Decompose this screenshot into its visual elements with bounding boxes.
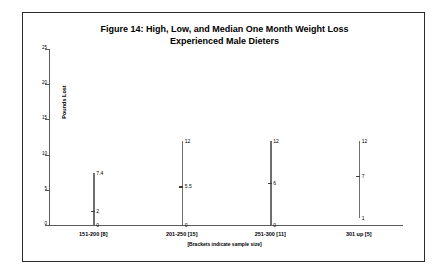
low-value-label: 0: [96, 222, 99, 228]
median-marker: [356, 176, 360, 177]
low-value-label: 0: [273, 222, 276, 228]
y-tick-label: 25: [42, 45, 47, 50]
median-marker: [268, 183, 272, 184]
y-tick-label: 5: [44, 186, 47, 191]
x-axis-line: [49, 225, 403, 226]
high-value-label: 12: [362, 138, 368, 144]
y-tick-label: 20: [42, 80, 47, 85]
chart-title-line-1: Figure 14: High, Low, and Median One Mon…: [23, 23, 426, 35]
y-axis-line: [49, 49, 50, 225]
median-marker: [179, 186, 183, 187]
median-value-label: 6: [273, 180, 276, 186]
median-value-label: 2: [96, 208, 99, 214]
range-line: [359, 141, 360, 218]
x-category-label: 201-250 [15]: [137, 231, 227, 237]
median-value-label: 5.5: [185, 183, 192, 189]
x-category-label: 301 up [5]: [314, 231, 404, 237]
low-value-label: 0: [185, 222, 188, 228]
y-tick-label: 10: [42, 151, 47, 156]
chart-footnote: [Brackets indicate sample size]: [23, 241, 426, 247]
plot-area: Pounds Lost 0510152025 7.420125.50126012…: [49, 49, 403, 225]
high-value-label: 7.4: [96, 170, 103, 176]
x-category-label: 251-300 [11]: [225, 231, 315, 237]
figure-frame: Figure 14: High, Low, and Median One Mon…: [22, 12, 425, 262]
median-marker: [91, 211, 95, 212]
low-value-label: 1: [362, 215, 365, 221]
range-line: [182, 141, 183, 225]
high-value-label: 12: [185, 138, 191, 144]
high-value-label: 12: [273, 138, 279, 144]
chart-title-line-2: Experienced Male Dieters: [23, 35, 426, 47]
y-axis-title: Pounds Lost: [61, 67, 67, 137]
median-value-label: 7: [362, 173, 365, 179]
chart-title: Figure 14: High, Low, and Median One Mon…: [23, 23, 426, 47]
y-tick-label: 0: [44, 221, 47, 226]
x-category-label: 151-200 [8]: [48, 231, 138, 237]
range-line: [93, 173, 94, 225]
y-tick-label: 15: [42, 115, 47, 120]
